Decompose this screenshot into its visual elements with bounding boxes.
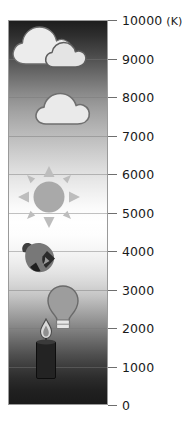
tick-9000 — [108, 59, 117, 60]
tick-4000 — [108, 251, 117, 252]
tick-8000 — [108, 97, 117, 98]
tick-label-6000: 6000 — [122, 167, 154, 182]
tick-1000 — [108, 367, 117, 368]
tick-label-8000: 8000 — [122, 90, 154, 105]
unit-label: (K) — [166, 15, 182, 28]
tick-0 — [108, 405, 117, 406]
tick-label-3000: 3000 — [122, 282, 154, 297]
sun-icon — [18, 166, 80, 228]
tick-7000 — [108, 136, 117, 137]
tick-2000 — [108, 328, 117, 329]
colorbar — [8, 20, 108, 405]
gridline-7000 — [8, 136, 108, 137]
tick-label-2000: 2000 — [122, 321, 154, 336]
tick-10000 — [108, 20, 117, 21]
cloud-icon — [33, 91, 93, 128]
overcast-clouds-icon — [10, 23, 88, 69]
tick-6000 — [108, 174, 117, 175]
flashlight-icon — [16, 238, 64, 282]
tick-5000 — [108, 213, 117, 214]
tick-label-9000: 9000 — [122, 51, 154, 66]
tick-label-0: 0 — [122, 398, 130, 413]
tick-label-10000: 10000 (K) — [122, 13, 182, 28]
tick-label-1000: 1000 — [122, 359, 154, 374]
tick-3000 — [108, 290, 117, 291]
tick-label-5000: 5000 — [122, 205, 154, 220]
tick-label-7000: 7000 — [122, 128, 154, 143]
tick-text-10000: 10000 — [122, 13, 162, 28]
candle-icon — [29, 318, 63, 380]
tick-label-4000: 4000 — [122, 244, 154, 259]
colour-temperature-scale: 10000 (K) 9000 8000 7000 6000 5000 4000 … — [0, 0, 183, 421]
